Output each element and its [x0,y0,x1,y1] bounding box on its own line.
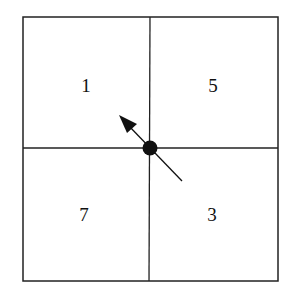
cell-label-bottom-right: 3 [207,204,217,225]
cell-label-top-left: 1 [81,75,91,96]
cell-label-top-right: 5 [208,75,218,96]
cell-label-bottom-left: 7 [79,204,89,225]
arrowhead-icon [119,115,137,133]
center-dot [143,141,158,156]
grid-diagram: 1 5 7 3 [0,0,295,290]
